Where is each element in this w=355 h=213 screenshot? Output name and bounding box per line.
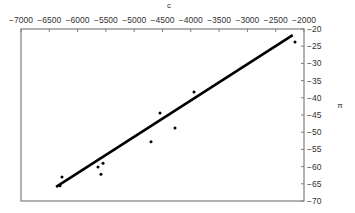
x-tick-label: −3500	[207, 15, 231, 25]
y-tick-label: −70	[307, 196, 322, 206]
scatter-chart: −7000−6500−6000−5500−5000−4500−4000−3500…	[0, 0, 355, 213]
data-point	[96, 165, 99, 168]
y-tick-label: −25	[307, 41, 322, 51]
x-axis-title: c	[167, 1, 171, 10]
y-tick-label: −50	[307, 127, 322, 137]
y-tick-label: −65	[307, 179, 322, 189]
data-point	[174, 127, 177, 130]
x-tick-label: −6000	[66, 15, 90, 25]
y-tick-label: −20	[307, 24, 322, 34]
data-series	[56, 35, 296, 187]
x-tick-label: −5000	[122, 15, 146, 25]
data-point	[159, 111, 162, 114]
x-tick-label: −4500	[151, 15, 175, 25]
x-tick-label: −6500	[37, 15, 61, 25]
data-point	[102, 162, 105, 165]
data-point	[58, 184, 61, 187]
x-tick-label: −5500	[94, 15, 118, 25]
x-tick-label: −3000	[235, 15, 259, 25]
y-tick-label: −55	[307, 144, 322, 154]
y-tick-label: −60	[307, 162, 322, 172]
data-point	[193, 90, 196, 93]
data-point	[99, 173, 102, 176]
y-tick-label: −30	[307, 58, 322, 68]
x-tick-label: −4000	[179, 15, 203, 25]
y-tick-label: −35	[307, 76, 322, 86]
x-tick-label: −2500	[264, 15, 288, 25]
x-tick-label: −7000	[9, 15, 33, 25]
y-tick-label: −45	[307, 110, 322, 120]
y-axis-title: π	[337, 101, 343, 110]
data-point	[60, 175, 63, 178]
data-point	[150, 140, 153, 143]
y-tick-label: −40	[307, 93, 322, 103]
data-point	[294, 41, 297, 44]
fit-line	[56, 35, 293, 187]
